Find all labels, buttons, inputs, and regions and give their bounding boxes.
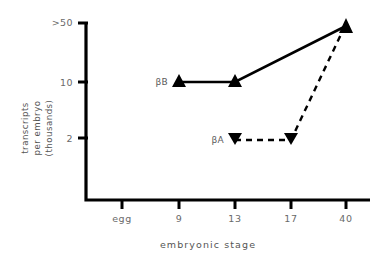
x-tick-label-4: 40: [339, 213, 352, 224]
y-axis-title: transcripts per embryo (thousands): [20, 100, 54, 157]
x-tick-label-2: 13: [228, 213, 241, 224]
x-tick-label-3: 17: [284, 213, 297, 224]
y-tick-label-1: 10: [60, 77, 73, 88]
series-beta-b-label: βB: [155, 77, 168, 87]
y-tick-label-0: >50: [52, 17, 73, 28]
x-tick-label-1: 9: [176, 213, 183, 224]
y-axis-title-line-1: transcripts: [20, 102, 30, 154]
y-axis-title-line-3: (thousands): [44, 100, 54, 157]
transcripts-per-embryo-line-chart: >50 10 2 transcripts per embryo (thousan…: [0, 0, 379, 262]
y-axis-title-line-2: per embryo: [32, 101, 42, 156]
x-axis-title: embryonic stage: [160, 239, 256, 250]
x-tick-label-0: egg: [112, 213, 132, 224]
series-beta-a-label: βA: [211, 135, 224, 145]
y-tick-label-2: 2: [67, 133, 73, 144]
chart-figure: >50 10 2 transcripts per embryo (thousan…: [0, 0, 379, 262]
